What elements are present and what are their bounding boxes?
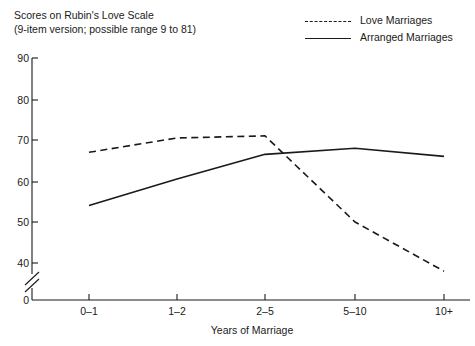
y-tick-label-40: 40 bbox=[17, 257, 29, 269]
x-axis-title: Years of Marriage bbox=[211, 324, 294, 336]
y-tick-label-50: 50 bbox=[17, 216, 29, 228]
love-scale-line-chart: Scores on Rubin's Love Scale (9-item ver… bbox=[0, 0, 475, 346]
x-tick-label-10-plus: 10+ bbox=[435, 305, 453, 317]
y-tick-label-0: 0 bbox=[23, 294, 29, 306]
y-tick-label-60: 60 bbox=[17, 176, 29, 188]
x-tick-label-5-10: 5–10 bbox=[343, 305, 367, 317]
x-tick-label-2-5: 2–5 bbox=[256, 305, 274, 317]
y-tick-label-80: 80 bbox=[17, 94, 29, 106]
series-line-arranged-marriages bbox=[89, 148, 444, 205]
y-tick-label-90: 90 bbox=[17, 52, 29, 64]
x-tick-label-1-2: 1–2 bbox=[168, 305, 186, 317]
plot-area: 90 80 70 60 50 40 0 0–1 1–2 2–5 5–10 10+ bbox=[0, 0, 475, 346]
y-tick-label-70: 70 bbox=[17, 134, 29, 146]
x-tick-label-0-1: 0–1 bbox=[80, 305, 98, 317]
series-line-love-marriages bbox=[89, 136, 444, 271]
